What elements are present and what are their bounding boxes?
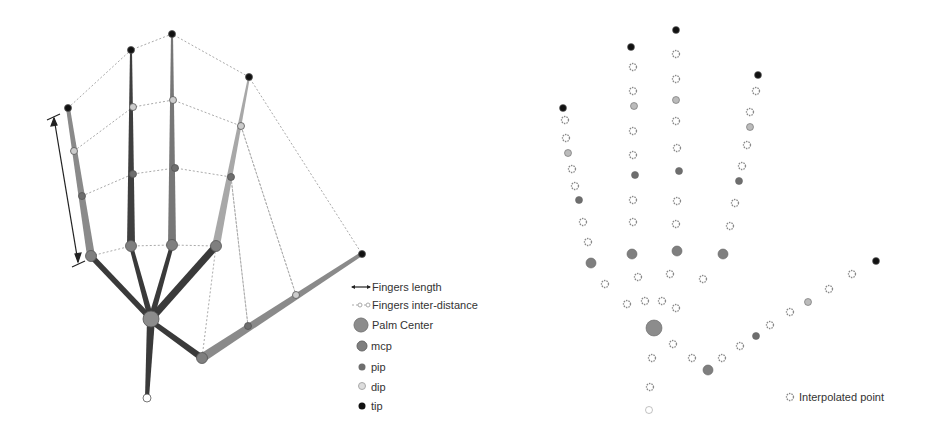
svg-text:tip: tip: [371, 400, 383, 412]
svg-text:pip: pip: [371, 361, 386, 373]
legend-item-mcp: mcp: [357, 340, 392, 352]
legend-item-fingers-inter-distance: Fingers inter-distance: [352, 299, 478, 311]
right-hand-interpolated: Interpolated point: [560, 27, 885, 414]
svg-text:mcp: mcp: [371, 340, 392, 352]
legend-item-palm-center: Palm Center: [354, 318, 433, 332]
legend-item-tip: tip: [359, 400, 383, 412]
interpolated-point-icon: [787, 394, 794, 401]
interpolated-points: [562, 51, 856, 391]
legend-item-pip: pip: [359, 361, 386, 373]
legend-item-dip: dip: [359, 381, 386, 393]
fingers-inter-distance-lines: [68, 34, 362, 358]
wrist-marker: [143, 394, 151, 402]
left-legend: Fingers length Fingers inter-distance Pa…: [351, 281, 478, 412]
palm-center-marker: [143, 311, 159, 327]
legend-item-fingers-length: Fingers length: [351, 281, 442, 293]
left-hand-model: Fingers length Fingers inter-distance Pa…: [47, 31, 478, 413]
svg-text:Interpolated point: Interpolated point: [799, 391, 884, 403]
svg-text:Fingers inter-distance: Fingers inter-distance: [372, 299, 478, 311]
svg-text:Palm Center: Palm Center: [372, 319, 433, 331]
svg-text:dip: dip: [371, 381, 386, 393]
finger-bones: [66, 34, 362, 362]
right-legend: Interpolated point: [787, 391, 885, 403]
hand-skeleton-diagram: Fingers length Fingers inter-distance Pa…: [0, 0, 941, 437]
svg-text:Fingers length: Fingers length: [372, 281, 442, 293]
